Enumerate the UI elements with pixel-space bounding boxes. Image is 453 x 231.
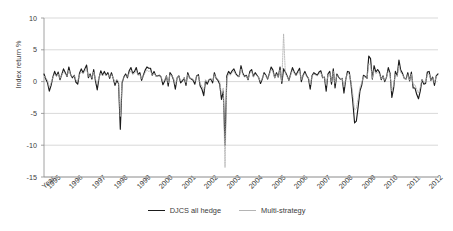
axis-frame: [41, 18, 438, 177]
legend-label: DJCS all hedge: [170, 206, 221, 215]
legend-item-multi-strategy[interactable]: Multi-strategy: [239, 206, 305, 215]
legend-swatch-icon: [148, 210, 165, 211]
series-line: [44, 34, 438, 168]
chart-legend: DJCS all hedge Multi-strategy: [0, 206, 453, 215]
gridlines: [44, 18, 438, 177]
legend-item-djcs-all-hedge[interactable]: DJCS all hedge: [148, 206, 221, 215]
plot-area: [0, 0, 453, 231]
legend-swatch-icon: [239, 210, 256, 211]
series-lines: [44, 34, 438, 168]
legend-label: Multi-strategy: [261, 206, 305, 215]
chart-container: Index return % 1050-5-10-15 Year19951996…: [0, 0, 453, 231]
